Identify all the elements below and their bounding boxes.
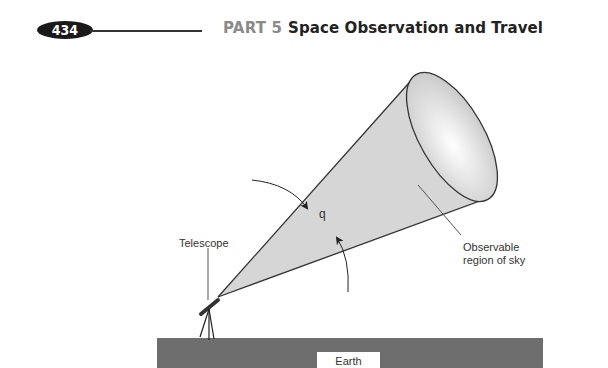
telescope-icon — [200, 300, 218, 340]
telescope-label: Telescope — [179, 237, 229, 250]
observable-label-line1: Observable — [463, 241, 519, 254]
observable-label-line2: region of sky — [463, 254, 525, 267]
angle-arrow-upper — [252, 180, 307, 208]
angle-theta-label: q — [319, 208, 326, 221]
telescope-field-of-view-diagram — [0, 0, 608, 368]
earth-label: Earth — [317, 352, 380, 368]
